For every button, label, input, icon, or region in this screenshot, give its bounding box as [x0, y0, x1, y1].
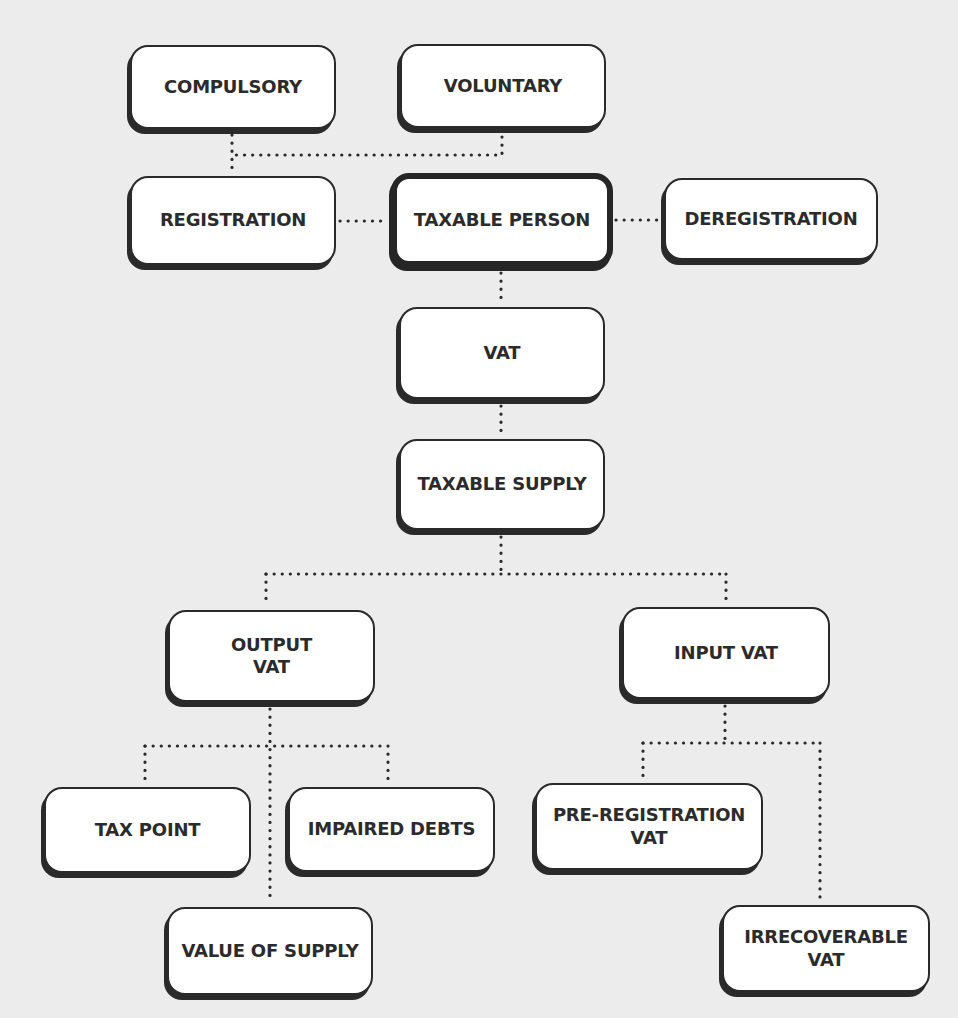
node-label: INPUT VAT — [674, 642, 778, 665]
node-taxable-supply: TAXABLE SUPPLY — [399, 439, 605, 530]
node-pre-registration-vat: PRE-REGISTRATION VAT — [535, 783, 763, 870]
node-label: TAXABLE PERSON — [414, 209, 590, 232]
node-label: PRE-REGISTRATION VAT — [553, 804, 745, 849]
node-value-of-supply: VALUE OF SUPPLY — [167, 907, 373, 995]
node-label: IMPAIRED DEBTS — [308, 818, 476, 841]
node-label: COMPULSORY — [164, 76, 302, 99]
node-label: VAT — [484, 342, 521, 365]
node-voluntary: VOLUNTARY — [400, 44, 606, 128]
node-output-vat: OUTPUT VAT — [168, 610, 375, 702]
node-impaired-debts: IMPAIRED DEBTS — [288, 787, 495, 872]
node-tax-point: TAX POINT — [44, 787, 251, 873]
node-compulsory: COMPULSORY — [130, 45, 336, 129]
node-label: OUTPUT VAT — [231, 634, 312, 679]
node-registration: REGISTRATION — [130, 176, 336, 265]
node-label: IRRECOVERABLE VAT — [744, 926, 908, 971]
node-label: REGISTRATION — [160, 209, 306, 232]
node-deregistration: DEREGISTRATION — [664, 178, 878, 260]
node-label: VALUE OF SUPPLY — [181, 940, 358, 963]
node-vat: VAT — [399, 307, 605, 399]
node-label: VOLUNTARY — [444, 75, 562, 98]
node-irrecoverable-vat: IRRECOVERABLE VAT — [722, 905, 930, 992]
node-label: TAX POINT — [95, 819, 201, 842]
node-label: DEREGISTRATION — [684, 208, 857, 231]
node-label: TAXABLE SUPPLY — [417, 473, 586, 496]
node-input-vat: INPUT VAT — [622, 607, 830, 699]
edge-voluntary-registration — [232, 137, 502, 155]
node-taxable-person: TAXABLE PERSON — [391, 173, 613, 267]
